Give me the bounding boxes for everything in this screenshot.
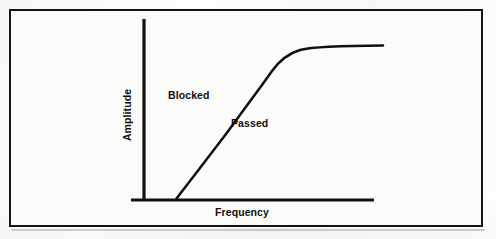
blocked-region-label: Blocked	[168, 89, 210, 101]
filter-response-figure: Amplitude Frequency Blocked Passed	[0, 0, 496, 239]
x-axis-label: Frequency	[0, 206, 490, 218]
y-axis-label: Amplitude	[121, 89, 133, 141]
response-curve	[177, 46, 384, 199]
passed-region-label: Passed	[231, 117, 268, 129]
